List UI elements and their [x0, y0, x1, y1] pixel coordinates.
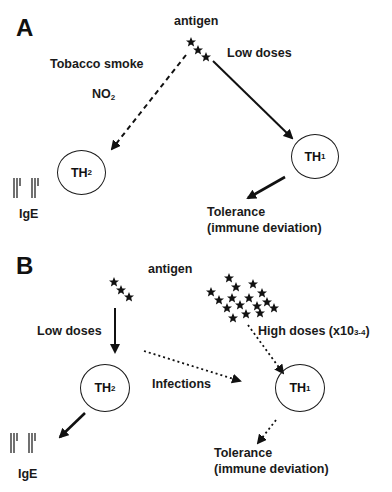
panel-b-ige-antibody-icon [11, 433, 35, 453]
panel-a-tobacco-smoke-label: Tobacco smoke [50, 57, 144, 71]
panel-a-ige-label: IgE [19, 207, 38, 221]
panel-a-th1-node: TH1 [291, 134, 339, 179]
panel-a-antigen-label: antigen [174, 14, 218, 28]
panel-b-dotted-arrow-tolerance [258, 420, 276, 443]
panel-b-antigen-label: antigen [148, 262, 192, 276]
panel-b-high-doses-label: High doses (x103-4) [258, 324, 370, 338]
panel-a-arrow-to-tolerance [248, 177, 285, 198]
panel-b-high-dose-stars [206, 273, 279, 322]
panel-a-no2-label: NO2 [92, 87, 115, 102]
panel-b-low-dose-stars [109, 277, 134, 301]
panel-b-low-doses-label: Low doses [37, 324, 102, 338]
panel-a-label: A [16, 14, 33, 42]
panel-b-immune-deviation-label: (immune deviation) [214, 462, 329, 476]
panel-a-th2-node: TH2 [57, 150, 106, 195]
panel-b-th1-node: TH1 [275, 364, 325, 412]
panel-a-tolerance-label: Tolerance [207, 205, 265, 219]
panel-a-antigen-stars [186, 37, 211, 61]
panel-b-ige-label: IgE [18, 467, 37, 481]
diagram-arrows [0, 0, 392, 492]
panel-a-ige-antibody-icon [14, 178, 38, 198]
panel-b-infections-label: Infections [152, 377, 211, 391]
panel-a-solid-arrow-to-th1 [213, 61, 292, 138]
panel-b-arrow-to-ige [60, 413, 85, 437]
panel-a-low-doses-label: Low doses [227, 46, 292, 60]
panel-b-label: B [16, 252, 33, 280]
panel-b-th2-node: TH2 [80, 364, 130, 412]
panel-b-tolerance-label: Tolerance [214, 446, 272, 460]
panel-a-immune-deviation-label: (immune deviation) [207, 221, 322, 235]
